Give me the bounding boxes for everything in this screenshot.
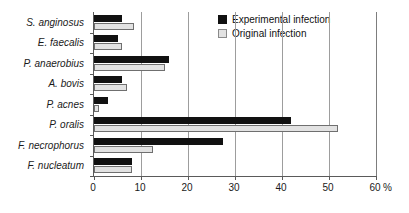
x-axis-tick-label: 60: [369, 182, 380, 194]
category-label: E. faecalis: [0, 33, 89, 54]
category-label: F. nucleatum: [0, 156, 89, 177]
gridline: [376, 12, 377, 176]
x-axis-tick-labels: 0102030405060: [93, 182, 375, 196]
x-axis-tickmark: [329, 176, 330, 180]
bar-original: [94, 146, 153, 153]
bar-row: [94, 94, 376, 115]
bar-experimental: [94, 97, 108, 104]
x-axis-tick-label: 50: [322, 182, 333, 194]
bar-row: [94, 135, 376, 156]
category-label: A. bovis: [0, 74, 89, 95]
x-axis-tickmark: [376, 176, 377, 180]
category-axis-labels: S. anginosus E. faecalis P. anaerobius A…: [0, 12, 89, 176]
bar-row: [94, 53, 376, 74]
category-tickmark: [90, 176, 94, 177]
x-axis-unit-label: %: [383, 182, 392, 194]
bar-row: [94, 12, 376, 33]
bar-experimental: [94, 158, 132, 165]
x-axis-tickmark: [282, 176, 283, 180]
bar-experimental: [94, 76, 122, 83]
bar-row: [94, 33, 376, 54]
category-label: F. necrophorus: [0, 135, 89, 156]
bar-original: [94, 105, 99, 112]
bar-rows: [94, 12, 376, 176]
x-axis-tick-label: 40: [275, 182, 286, 194]
bar-row: [94, 115, 376, 136]
x-axis-tickmark: [94, 176, 95, 180]
bar-chart: Experimental infection Original infectio…: [0, 0, 409, 213]
bar-original: [94, 84, 127, 91]
category-label: P. oralis: [0, 115, 89, 136]
x-axis-tick-label: 30: [228, 182, 239, 194]
x-axis-tick-label: 20: [181, 182, 192, 194]
x-axis-tickmark: [141, 176, 142, 180]
bar-original: [94, 166, 132, 173]
x-axis-tickmark: [235, 176, 236, 180]
bar-row: [94, 74, 376, 95]
bar-experimental: [94, 138, 223, 145]
category-label: P. acnes: [0, 94, 89, 115]
category-label: P. anaerobius: [0, 53, 89, 74]
bar-row: [94, 156, 376, 177]
bar-original: [94, 23, 134, 30]
x-axis-tick-label: 10: [134, 182, 145, 194]
category-label: S. anginosus: [0, 12, 89, 33]
bar-original: [94, 64, 165, 71]
bar-experimental: [94, 117, 291, 124]
bar-experimental: [94, 15, 122, 22]
plot-area: [93, 12, 376, 177]
x-axis-tickmark: [188, 176, 189, 180]
bar-experimental: [94, 35, 118, 42]
bar-original: [94, 125, 338, 132]
plot-wrapper: S. anginosus E. faecalis P. anaerobius A…: [0, 12, 409, 180]
bar-original: [94, 43, 122, 50]
bar-experimental: [94, 56, 169, 63]
x-axis-tick-label: 0: [90, 182, 96, 194]
